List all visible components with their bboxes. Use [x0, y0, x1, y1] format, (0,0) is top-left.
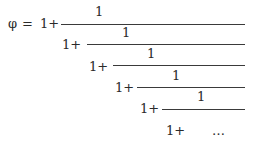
- numerator-2: 1: [122, 26, 130, 39]
- term-whole-2: 1+: [62, 38, 81, 51]
- equals-sign: =: [22, 17, 33, 30]
- fraction-bar-3: [113, 65, 245, 66]
- term-whole-6: 1+: [166, 124, 185, 137]
- term-whole-4: 1+: [115, 81, 134, 94]
- numerator-1: 1: [95, 5, 103, 18]
- term-whole-1: 1+: [40, 17, 59, 30]
- fraction-bar-5: [162, 109, 245, 110]
- numerator-4: 1: [172, 69, 180, 82]
- fraction-bar-1: [61, 24, 245, 25]
- term-whole-3: 1+: [89, 60, 108, 73]
- numerator-5: 1: [197, 90, 205, 103]
- phi-symbol: φ: [8, 17, 17, 30]
- fraction-bar-4: [137, 87, 245, 88]
- numerator-3: 1: [147, 47, 155, 60]
- fraction-bar-2: [87, 44, 245, 45]
- term-whole-5: 1+: [140, 102, 159, 115]
- ellipsis: …: [212, 124, 225, 137]
